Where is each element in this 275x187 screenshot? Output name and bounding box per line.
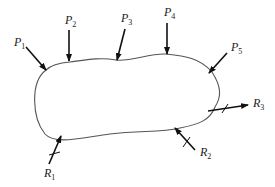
svg-text:P3: P3 [120, 11, 132, 27]
body-outline [35, 54, 220, 140]
arrow-p1-icon [26, 47, 46, 70]
arrow-p3-icon [117, 29, 125, 60]
arrow-p5-icon [209, 53, 227, 73]
load-p3: P3 [117, 11, 132, 60]
svg-text:P4: P4 [163, 5, 175, 21]
reaction-r2: R2 [175, 128, 211, 161]
svg-text:R3: R3 [252, 96, 264, 112]
free-body-diagram: P1 P2 P3 P4 P5 R1 R2 R3 [0, 0, 275, 187]
load-p2: P2 [64, 13, 76, 61]
load-p1: P1 [13, 35, 46, 70]
arrow-r2-icon [175, 128, 195, 150]
svg-text:R1: R1 [43, 166, 55, 182]
svg-text:R2: R2 [199, 145, 211, 161]
svg-text:P5: P5 [230, 40, 242, 56]
reaction-r1: R1 [43, 136, 61, 182]
svg-text:P1: P1 [13, 35, 25, 51]
arrow-r1-icon [49, 136, 61, 164]
load-p5: P5 [209, 40, 242, 73]
svg-text:P2: P2 [64, 13, 76, 29]
load-p4: P4 [163, 5, 175, 54]
